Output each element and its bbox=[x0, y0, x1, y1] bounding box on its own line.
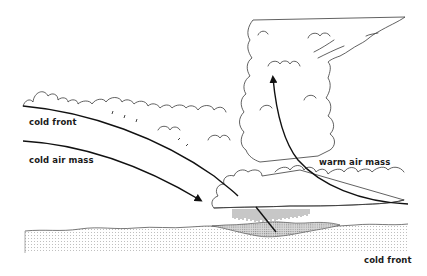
storm-cloud-base bbox=[212, 170, 404, 208]
cumulonimbus-cloud bbox=[240, 17, 406, 162]
rain-shaft bbox=[233, 209, 309, 222]
stratocumulus-band bbox=[23, 92, 226, 112]
cold-front-diagram bbox=[0, 0, 427, 276]
cold-air-arrow bbox=[23, 141, 200, 200]
label-cold-front-upper: cold front bbox=[29, 117, 77, 127]
label-cold-front-lower: cold front bbox=[364, 255, 412, 265]
ground-surface bbox=[25, 224, 408, 253]
label-cold-air-mass: cold air mass bbox=[29, 155, 94, 165]
label-warm-air-mass: warm air mass bbox=[319, 157, 390, 167]
